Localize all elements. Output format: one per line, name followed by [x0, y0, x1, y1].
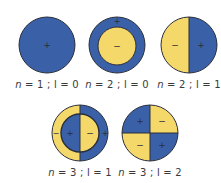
- plus-sign: +: [114, 17, 121, 26]
- orbital-n1-l0: +: [19, 17, 75, 73]
- orbital-n2-l0: + −: [89, 17, 145, 73]
- plus-sign: +: [66, 128, 74, 138]
- label-n3-l2: n = 3 ; l = 2: [118, 167, 182, 178]
- minus-sign: −: [171, 40, 179, 50]
- label-n2-l0: n = 2 ; l = 0: [85, 79, 149, 90]
- label-rest: = 2 ; l = 0: [92, 79, 149, 90]
- minus-sign: −: [86, 128, 94, 138]
- plus-sign: +: [197, 40, 205, 50]
- label-rest: = 3 ; l = 1: [55, 167, 112, 178]
- orbital-diagram: + + − − + − + − + +: [0, 0, 221, 183]
- minus-sign: −: [158, 116, 166, 126]
- minus-sign: −: [136, 140, 144, 150]
- plus-sign: +: [158, 140, 166, 150]
- label-rest: = 2 ; l = 1: [164, 79, 221, 90]
- minus-sign: −: [53, 129, 60, 138]
- label-n2-l1: n = 2 ; l = 1: [157, 79, 221, 90]
- label-rest: = 1 ; l = 0: [22, 79, 79, 90]
- orbital-n3-l2: + − − +: [122, 105, 178, 161]
- label-n3-l1: n = 3 ; l = 1: [48, 167, 112, 178]
- plus-sign: +: [136, 116, 144, 126]
- label-rest: = 3 ; l = 2: [125, 167, 182, 178]
- orbital-n2-l1: − +: [161, 17, 217, 73]
- plus-sign: +: [102, 129, 109, 138]
- label-n1-l0: n = 1 ; l = 0: [15, 79, 79, 90]
- plus-sign: +: [43, 40, 51, 50]
- orbital-n3-l1: − + − +: [52, 105, 108, 161]
- minus-sign: −: [113, 41, 121, 51]
